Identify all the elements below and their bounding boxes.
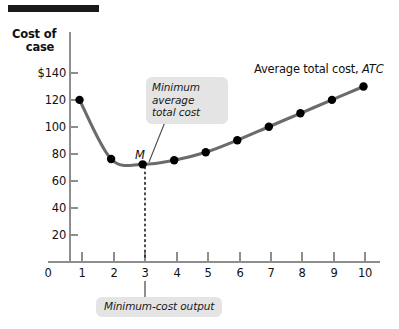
minimum-atc-leader-line xyxy=(149,117,167,162)
callout-min-atc-line2: average xyxy=(152,94,222,107)
data-point-q6 xyxy=(233,136,241,144)
point-label-m: M xyxy=(135,148,145,162)
atc-cost-curve-figure: Cost of case $140 120 100 80 60 40 20 0 … xyxy=(0,0,399,329)
callout-min-atc-line1: Minimum xyxy=(152,81,222,94)
series-label-abbr: ATC xyxy=(362,62,384,76)
data-point-q10 xyxy=(359,82,367,90)
data-point-q9 xyxy=(328,96,336,104)
data-point-q8 xyxy=(296,109,304,117)
plot-area xyxy=(0,0,399,329)
callout-minimum-cost-output: Minimum-cost output xyxy=(96,297,222,317)
series-label-atc: Average total cost, ATC xyxy=(254,62,384,76)
data-point-q1 xyxy=(75,96,83,104)
data-point-q2 xyxy=(107,155,115,163)
callout-min-output-label: Minimum-cost output xyxy=(104,300,214,312)
callout-min-atc-line1: Minimumaveragetotal cost xyxy=(152,81,222,119)
data-point-q4 xyxy=(170,156,178,164)
callout-minimum-average-total-cost: Minimumaveragetotal cost xyxy=(146,77,228,124)
data-point-q7 xyxy=(265,123,273,131)
data-point-q5 xyxy=(202,148,210,156)
callout-min-atc-line3: total cost xyxy=(152,106,222,119)
series-label-text: Average total cost, xyxy=(254,62,362,76)
